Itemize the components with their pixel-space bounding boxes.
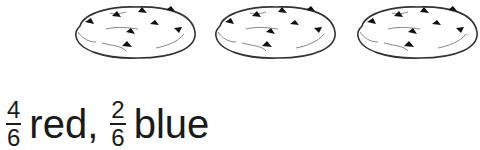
denominator: 6 bbox=[6, 126, 21, 150]
denominator: 6 bbox=[110, 126, 125, 150]
label-red: red, bbox=[29, 104, 98, 144]
cookie-icon bbox=[214, 2, 338, 60]
numerator: 4 bbox=[6, 98, 21, 122]
fraction-caption: 4 6 red, 2 6 blue bbox=[6, 98, 221, 150]
fraction-red: 4 6 bbox=[6, 98, 21, 150]
cookie-illustration bbox=[0, 0, 474, 65]
cookie-icon bbox=[74, 2, 198, 60]
cookie-icon bbox=[356, 2, 480, 60]
numerator: 2 bbox=[110, 98, 125, 122]
label-blue: blue bbox=[134, 104, 210, 144]
fraction-blue: 2 6 bbox=[110, 98, 125, 150]
